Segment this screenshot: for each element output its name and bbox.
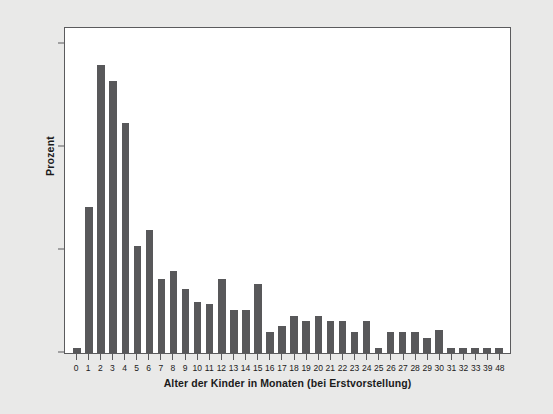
bar[interactable] [266, 332, 273, 353]
bar[interactable] [182, 289, 189, 353]
x-tick [276, 354, 288, 361]
bar[interactable] [146, 230, 153, 353]
bar[interactable] [495, 348, 502, 353]
x-tick-mark [463, 354, 464, 360]
x-tick-label: 3 [106, 362, 118, 376]
bar[interactable] [85, 207, 92, 353]
bar[interactable] [170, 271, 177, 353]
bar[interactable] [483, 348, 490, 353]
x-tick-label: 18 [288, 362, 300, 376]
bar[interactable] [315, 316, 322, 353]
bar-slot [95, 28, 107, 353]
bar-slot [385, 28, 397, 353]
bar[interactable] [122, 123, 129, 353]
bar-slot [493, 28, 505, 353]
x-tick-label: 4 [118, 362, 130, 376]
x-tick-label: 27 [397, 362, 409, 376]
bar-slot [107, 28, 119, 353]
y-tick-mark [58, 42, 64, 43]
bar-slot [397, 28, 409, 353]
bar-slot [324, 28, 336, 353]
x-tick-label: 14 [240, 362, 252, 376]
x-tick-mark [318, 354, 319, 360]
x-tick-label: 17 [276, 362, 288, 376]
bar[interactable] [327, 321, 334, 353]
x-tick-mark [294, 354, 295, 360]
x-tick-label: 25 [373, 362, 385, 376]
x-axis-title: Alter der Kinder in Monaten (bei Erstvor… [64, 377, 511, 389]
x-tick-mark [499, 354, 500, 360]
bar-slot [228, 28, 240, 353]
x-tick [131, 354, 143, 361]
bar[interactable] [411, 332, 418, 353]
bar[interactable] [254, 284, 261, 353]
bar[interactable] [375, 348, 382, 353]
x-tick [494, 354, 506, 361]
bar[interactable] [447, 348, 454, 353]
chart-figure: Prozent 01234567891011121314151617181920… [0, 0, 553, 414]
y-axis-title: Prozent [44, 96, 56, 216]
bar-slot [373, 28, 385, 353]
bar[interactable] [339, 321, 346, 353]
x-tick-mark [354, 354, 355, 360]
x-tick-mark [209, 354, 210, 360]
bar-slot [204, 28, 216, 353]
bar-slot [264, 28, 276, 353]
bar[interactable] [290, 316, 297, 353]
bar[interactable] [242, 310, 249, 353]
bar-slot [445, 28, 457, 353]
x-tick-mark [148, 354, 149, 360]
x-tick-mark [76, 354, 77, 360]
bar[interactable] [302, 321, 309, 353]
bar[interactable] [206, 304, 213, 353]
bar-slot [252, 28, 264, 353]
bar[interactable] [230, 310, 237, 353]
x-tick [155, 354, 167, 361]
x-tick-label: 20 [312, 362, 324, 376]
bar[interactable] [218, 279, 225, 353]
bar[interactable] [278, 326, 285, 353]
x-tick [433, 354, 445, 361]
x-tick-label: 48 [494, 362, 506, 376]
x-tick [300, 354, 312, 361]
bar[interactable] [351, 332, 358, 353]
bar[interactable] [387, 332, 394, 353]
y-tick-mark [58, 248, 64, 249]
bar[interactable] [134, 246, 141, 353]
bar[interactable] [158, 279, 165, 353]
x-tick-mark [475, 354, 476, 360]
x-tick [191, 354, 203, 361]
x-tick [227, 354, 239, 361]
bar[interactable] [435, 330, 442, 353]
x-tick-label: 28 [409, 362, 421, 376]
x-tick-label: 32 [458, 362, 470, 376]
x-tick [106, 354, 118, 361]
bar[interactable] [109, 81, 116, 353]
x-tick-mark [100, 354, 101, 360]
bar[interactable] [423, 338, 430, 353]
bar-slot [288, 28, 300, 353]
x-tick [336, 354, 348, 361]
x-tick [82, 354, 94, 361]
bar[interactable] [459, 348, 466, 353]
plot-area [64, 27, 511, 354]
bar[interactable] [363, 321, 370, 353]
bar[interactable] [399, 332, 406, 353]
x-tick-mark [451, 354, 452, 360]
bar-slot [240, 28, 252, 353]
bar[interactable] [194, 302, 201, 353]
bar-slot [348, 28, 360, 353]
bar-slot [300, 28, 312, 353]
bar[interactable] [97, 65, 104, 353]
bar-slot [336, 28, 348, 353]
bar-slot [457, 28, 469, 353]
bar-slot [155, 28, 167, 353]
x-tick-label: 7 [155, 362, 167, 376]
x-tick [458, 354, 470, 361]
x-tick [203, 354, 215, 361]
x-tick-label: 19 [300, 362, 312, 376]
bar[interactable] [471, 348, 478, 353]
bar[interactable] [73, 348, 80, 353]
x-tick-label: 13 [227, 362, 239, 376]
x-tick-label: 29 [421, 362, 433, 376]
